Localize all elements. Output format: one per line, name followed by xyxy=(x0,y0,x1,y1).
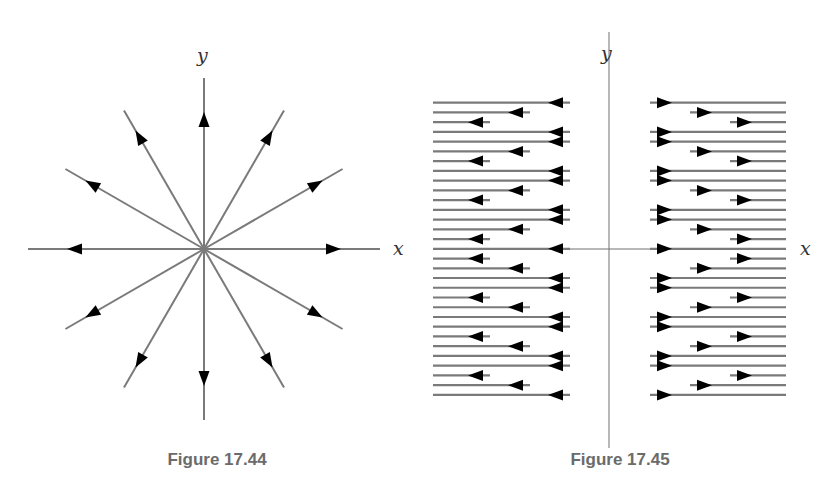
arrow-right-icon xyxy=(697,302,712,313)
arrow-left-icon xyxy=(548,126,563,137)
arrow-right-icon xyxy=(697,263,712,274)
arrow-right-icon xyxy=(697,185,712,196)
arrow-right-icon xyxy=(657,312,672,323)
arrow-right-icon xyxy=(697,224,712,235)
arrow-left-icon xyxy=(508,263,523,274)
arrow-right-icon xyxy=(737,331,752,342)
arrow-right-icon xyxy=(737,370,752,381)
arrow-left-icon xyxy=(548,312,563,323)
arrow-right-icon xyxy=(657,126,672,137)
arrow-head-icon xyxy=(85,181,101,193)
arrow-right-icon xyxy=(657,360,672,371)
arrow-right-icon xyxy=(737,117,752,128)
arrow-head-icon xyxy=(307,305,323,317)
fig45-x-label: x xyxy=(800,237,811,259)
arrow-left-icon xyxy=(508,380,523,391)
arrow-right-icon xyxy=(697,107,712,118)
arrow-left-icon xyxy=(468,292,483,303)
arrow-head-icon xyxy=(136,352,148,368)
fig45-y-label: y xyxy=(600,42,612,64)
arrow-right-icon xyxy=(657,165,672,176)
arrow-right-icon xyxy=(657,204,672,215)
arrow-head-icon xyxy=(199,112,210,127)
arrow-left-icon xyxy=(548,243,563,254)
arrow-right-icon xyxy=(657,243,672,254)
arrow-right-icon xyxy=(657,389,672,400)
fig44-y-label: y xyxy=(196,44,208,66)
arrow-right-icon xyxy=(657,273,672,284)
arrow-left-icon xyxy=(548,97,563,108)
arrow-head-icon xyxy=(85,305,101,317)
arrow-left-icon xyxy=(548,165,563,176)
arrow-right-icon xyxy=(657,282,672,293)
arrow-head-icon xyxy=(326,244,341,255)
arrow-right-icon xyxy=(657,136,672,147)
arrow-head-icon xyxy=(67,244,82,255)
arrow-right-icon xyxy=(737,156,752,167)
figure-17-45-diagram xyxy=(433,32,786,448)
fig44-x-label: x xyxy=(393,237,404,259)
arrow-left-icon xyxy=(468,370,483,381)
arrow-right-icon xyxy=(657,214,672,225)
arrow-right-icon xyxy=(697,380,712,391)
arrow-left-icon xyxy=(508,341,523,352)
arrow-left-icon xyxy=(508,185,523,196)
arrow-left-icon xyxy=(508,302,523,313)
arrow-left-icon xyxy=(548,389,563,400)
arrow-left-icon xyxy=(548,204,563,215)
figure-17-45-caption: Figure 17.45 xyxy=(570,450,669,470)
arrow-left-icon xyxy=(508,107,523,118)
arrow-right-icon xyxy=(737,195,752,206)
arrow-head-icon xyxy=(260,352,272,368)
arrow-right-icon xyxy=(657,175,672,186)
arrow-right-icon xyxy=(657,350,672,361)
arrow-right-icon xyxy=(657,321,672,332)
arrow-head-icon xyxy=(307,181,323,193)
arrow-left-icon xyxy=(548,136,563,147)
arrow-right-icon xyxy=(657,97,672,108)
arrow-left-icon xyxy=(548,321,563,332)
arrow-left-icon xyxy=(468,117,483,128)
arrow-right-icon xyxy=(697,341,712,352)
arrow-left-icon xyxy=(548,350,563,361)
arrow-head-icon xyxy=(136,130,148,146)
figures-canvas: y x y x xyxy=(0,0,836,484)
arrow-right-icon xyxy=(737,292,752,303)
arrow-left-icon xyxy=(468,331,483,342)
arrow-left-icon xyxy=(468,195,483,206)
arrow-left-icon xyxy=(548,282,563,293)
arrow-left-icon xyxy=(548,214,563,225)
figure-17-44-diagram xyxy=(28,78,380,420)
arrow-left-icon xyxy=(468,156,483,167)
arrow-left-icon xyxy=(468,253,483,264)
arrow-left-icon xyxy=(508,224,523,235)
arrow-right-icon xyxy=(737,253,752,264)
arrow-left-icon xyxy=(508,146,523,157)
arrow-head-icon xyxy=(199,371,210,386)
figure-17-44-caption: Figure 17.44 xyxy=(167,450,266,470)
arrow-left-icon xyxy=(548,273,563,284)
arrow-right-icon xyxy=(697,146,712,157)
arrow-left-icon xyxy=(548,175,563,186)
arrow-left-icon xyxy=(548,360,563,371)
arrow-head-icon xyxy=(260,130,272,146)
arrow-left-icon xyxy=(468,234,483,245)
arrow-right-icon xyxy=(737,234,752,245)
